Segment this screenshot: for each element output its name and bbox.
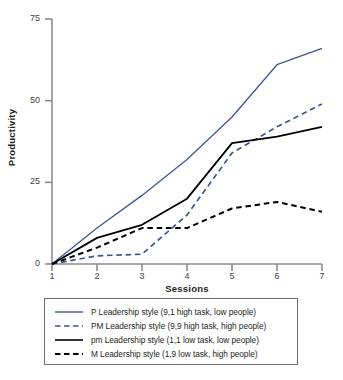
y-tick-label-25: 25	[12, 176, 40, 186]
x-tick-label-1: 1	[43, 271, 61, 281]
x-tick-label-4: 4	[178, 271, 196, 281]
legend-item-p[interactable]: P Leadership style (9,1 high task, low p…	[45, 305, 297, 319]
x-tick-label-3: 3	[133, 271, 151, 281]
series-line-P	[52, 48, 322, 264]
chart-legend: P Leadership style (9,1 high task, low p…	[44, 298, 298, 365]
legend-label-m: M Leadership style (1,9 low task, high p…	[91, 349, 258, 359]
legend-item-pm-low[interactable]: pm Leadership style (1,1 low task, low p…	[45, 333, 297, 347]
productivity-line-chart: Productivity Sessions 75 50 25 0 1 2 3 4…	[0, 0, 343, 380]
x-tick-label-7: 7	[313, 271, 331, 281]
y-tick-label-50: 50	[12, 95, 40, 105]
x-tick-label-6: 6	[268, 271, 286, 281]
x-tick-label-2: 2	[88, 271, 106, 281]
x-tick-label-5: 5	[223, 271, 241, 281]
x-axis-title: Sessions	[52, 283, 322, 294]
x-axis-ticks	[52, 264, 322, 271]
legend-label-pm-low: pm Leadership style (1,1 low task, low p…	[91, 335, 259, 345]
legend-swatch-dashed-blue-icon	[54, 321, 84, 331]
legend-swatch-solid-blue-icon	[54, 307, 84, 317]
legend-swatch-solid-black-icon	[54, 335, 84, 345]
y-tick-label-75: 75	[12, 13, 40, 23]
y-axis-title: Productivity	[6, 98, 17, 178]
legend-label-pm-high: PM Leadership style (9,9 high task, high…	[91, 321, 266, 331]
legend-item-m[interactable]: M Leadership style (1,9 low task, high p…	[45, 347, 297, 361]
plot-area	[0, 0, 343, 300]
series-line-M	[52, 202, 322, 264]
series-line-pm	[52, 127, 322, 264]
legend-label-p: P Leadership style (9,1 high task, low p…	[91, 307, 256, 317]
data-series-layer	[52, 48, 322, 264]
y-axis-ticks	[45, 19, 52, 264]
y-tick-label-0: 0	[12, 258, 40, 268]
legend-swatch-dashed-black-icon	[54, 349, 84, 359]
legend-item-pm-high[interactable]: PM Leadership style (9,9 high task, high…	[45, 319, 297, 333]
